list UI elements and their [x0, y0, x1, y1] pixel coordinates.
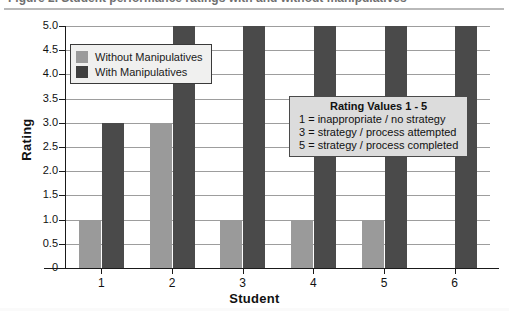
x-tick-mark	[243, 268, 244, 274]
x-axis-line	[44, 268, 499, 269]
gridline	[66, 244, 490, 245]
rating-values-line-1: 1 = inappropriate / no strategy	[299, 113, 458, 126]
y-tick-label: 0.5	[18, 237, 58, 249]
y-tick-mark	[59, 123, 66, 124]
y-tick-mark	[59, 50, 66, 51]
x-tick-mark	[313, 268, 314, 274]
bar-without-manipulatives-student-1	[79, 220, 101, 268]
gridline	[66, 195, 490, 196]
x-tick-label: 3	[223, 276, 263, 290]
x-tick-label: 2	[152, 276, 192, 290]
y-tick-label: 4.0	[18, 67, 58, 79]
y-tick-mark	[59, 220, 66, 221]
y-tick-label: 1.0	[18, 213, 58, 225]
x-tick-label: 4	[293, 276, 333, 290]
chart-legend: Without Manipulatives With Manipulatives	[70, 44, 212, 84]
x-tick-label: 6	[435, 276, 475, 290]
legend-item: Without Manipulatives	[76, 49, 203, 64]
x-tick-mark	[101, 268, 102, 274]
legend-label-with-manipulatives: With Manipulatives	[95, 66, 187, 78]
x-tick-mark	[384, 268, 385, 274]
y-tick-label: 4.5	[18, 43, 58, 55]
legend-swatch-without-manipulatives	[76, 51, 88, 63]
y-tick-mark	[59, 171, 66, 172]
y-tick-mark	[59, 268, 66, 269]
x-tick-mark	[455, 268, 456, 274]
rating-values-title: Rating Values 1 - 5	[299, 100, 458, 112]
y-tick-mark	[59, 147, 66, 148]
bar-without-manipulatives-student-5	[362, 220, 384, 268]
y-tick-label: 5.0	[18, 19, 58, 31]
y-tick-mark	[59, 99, 66, 100]
y-tick-label: 0	[18, 261, 58, 273]
bar-without-manipulatives-student-2	[150, 123, 172, 268]
bar-without-manipulatives-student-4	[291, 220, 313, 268]
rating-values-line-3: 5 = strategy / process completed	[299, 139, 458, 152]
x-tick-label: 1	[81, 276, 121, 290]
bar-without-manipulatives-student-3	[220, 220, 242, 268]
rating-values-line-2: 3 = strategy / process attempted	[299, 126, 458, 139]
legend-label-without-manipulatives: Without Manipulatives	[95, 51, 203, 63]
y-tick-mark	[59, 74, 66, 75]
y-tick-label: 1.5	[18, 188, 58, 200]
legend-swatch-with-manipulatives	[76, 66, 88, 78]
gridline	[66, 220, 490, 221]
y-tick-mark	[59, 26, 66, 27]
legend-item: With Manipulatives	[76, 64, 203, 79]
y-tick-mark	[59, 244, 66, 245]
rating-values-annotation: Rating Values 1 - 5 1 = inappropriate / …	[289, 96, 468, 157]
bar-chart: 00.51.01.52.02.53.03.54.04.55.0 Rating S…	[0, 0, 509, 311]
y-tick-mark	[59, 195, 66, 196]
x-tick-mark	[172, 268, 173, 274]
x-axis-title: Student	[0, 291, 509, 306]
bar-with-manipulatives-student-1	[102, 123, 124, 268]
gridline	[66, 26, 490, 27]
y-axis-title: Rating	[19, 100, 34, 180]
bar-with-manipulatives-student-3	[243, 26, 265, 268]
gridline	[66, 171, 490, 172]
x-tick-label: 5	[364, 276, 404, 290]
